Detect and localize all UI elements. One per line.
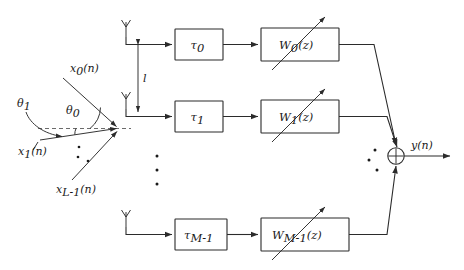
incoming-signals-group: x0(n) x1(n) xL-1(n) θ1 θ0 [17,62,131,199]
antenna-icon [122,92,131,109]
source-ellipsis-dot [77,156,80,159]
angle-arc-theta1 [75,129,76,135]
array-ellipsis-dot [156,183,159,186]
antenna-icon [122,210,131,227]
branch-1-output-line [339,117,397,148]
beamformer-diagram: x0(n) x1(n) xL-1(n) θ1 θ0 [0,0,464,270]
branch-0-output-line [339,45,396,146]
element-spacing-label: l [143,72,147,85]
branch-1: τ1 W1(z) [126,89,397,147]
summer-ellipsis-dot [374,149,377,152]
signal-label-xL-1: xL-1(n) [56,183,96,199]
theta1-leader-line [26,112,62,137]
branch-m-1-output-line [349,166,396,235]
signal-arrow-x0 [63,78,117,127]
signal-label-x1: x1(n) [18,145,47,161]
source-ellipsis-dot [78,146,81,149]
summing-junction-group: y(n) [368,139,451,172]
array-ellipsis-dot [156,169,159,172]
output-label-y: y(n) [410,139,433,152]
angle-label-theta0: θ0 [66,104,80,120]
branch-0-feed-line [126,37,172,45]
angle-label-theta1: θ1 [17,97,31,113]
signal-arrow-xL-1 [72,132,117,181]
diagram-canvas: x0(n) x1(n) xL-1(n) θ1 θ0 [0,0,464,270]
source-ellipsis-dot [87,160,90,163]
antenna-array-group: l [122,20,159,227]
array-ellipsis-dot [156,155,159,158]
summer-ellipsis-dot [368,159,371,162]
summer-ellipsis-dot [376,169,379,172]
branch-m-1-feed-line [126,227,172,235]
signal-label-x0: x0(n) [70,62,99,78]
branch-m-1: τM-1 WM-1(z) [126,166,396,260]
branch-1-feed-line [126,109,172,117]
antenna-icon [122,20,131,37]
